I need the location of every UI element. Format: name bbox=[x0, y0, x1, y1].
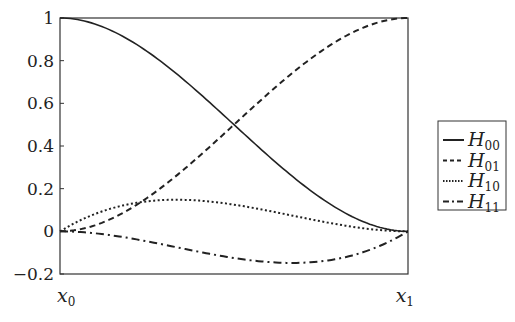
x-axis-ticks: x0x1 bbox=[57, 284, 414, 309]
x-tick-label-x0: x0 bbox=[57, 284, 75, 309]
line-h00 bbox=[60, 18, 408, 231]
line-h11 bbox=[60, 231, 408, 263]
hermite-basis-chart: 10.80.60.40.20−0.2 x0x1 H00H01H10H11 bbox=[0, 0, 515, 322]
y-axis-ticks: 10.80.60.40.20−0.2 bbox=[13, 8, 64, 284]
plot-frame bbox=[60, 18, 408, 274]
y-tick-label: 1 bbox=[43, 8, 54, 28]
legend: H00H01H10H11 bbox=[438, 121, 506, 215]
y-tick-label: 0.8 bbox=[27, 51, 54, 71]
line-h10 bbox=[60, 200, 408, 232]
y-tick-label: −0.2 bbox=[13, 264, 54, 284]
x-tick-label-x1: x1 bbox=[396, 284, 414, 309]
y-tick-label: 0.6 bbox=[27, 93, 54, 113]
y-tick-label: 0 bbox=[43, 221, 54, 241]
y-tick-label: 0.4 bbox=[27, 136, 54, 156]
series-lines bbox=[60, 18, 408, 263]
y-tick-label: 0.2 bbox=[27, 179, 54, 199]
